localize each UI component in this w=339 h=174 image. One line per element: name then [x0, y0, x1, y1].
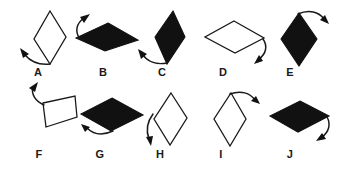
- item-label-j: J: [280, 148, 300, 160]
- item-g-group: [81, 98, 143, 134]
- item-a-diamond: [34, 11, 66, 64]
- item-j-arrow: [322, 117, 329, 137]
- item-h-group: [146, 93, 187, 146]
- item-label-h: H: [150, 148, 170, 160]
- item-g-diamond: [81, 98, 143, 131]
- item-d-arrow: [259, 39, 266, 59]
- item-label-i: I: [211, 148, 231, 160]
- item-f-group: [29, 82, 77, 127]
- item-label-a: A: [28, 66, 48, 78]
- item-label-b: B: [93, 66, 113, 78]
- item-c-diamond: [155, 11, 185, 64]
- item-f-diamond: [43, 96, 77, 127]
- item-a-arrowhead: [20, 48, 29, 58]
- item-h-diamond: [154, 93, 187, 145]
- item-h-arrowhead: [146, 136, 153, 146]
- item-label-g: G: [90, 148, 110, 160]
- item-label-e: E: [280, 66, 300, 78]
- item-b-diamond: [76, 23, 138, 51]
- item-b-group: [76, 14, 138, 51]
- item-d-group: [205, 21, 266, 64]
- item-f-arrowhead: [29, 82, 38, 92]
- item-d-diamond: [205, 21, 264, 53]
- item-label-c: C: [152, 66, 172, 78]
- item-g-arrowhead: [81, 124, 90, 132]
- item-j-group: [270, 101, 329, 141]
- item-b-arrowhead: [80, 14, 90, 23]
- item-label-d: D: [213, 66, 233, 78]
- item-h-arrow: [147, 114, 153, 139]
- item-i-diamond: [214, 93, 246, 146]
- item-e-group: [281, 12, 329, 66]
- item-label-f: F: [29, 148, 49, 160]
- item-j-diamond: [270, 101, 329, 132]
- item-i-group: [214, 92, 260, 146]
- item-a-group: [20, 11, 66, 64]
- diamond-rotation-figure: A B C D E F G H I J: [0, 0, 339, 174]
- item-c-group: [138, 11, 185, 64]
- item-e-diamond: [281, 13, 317, 66]
